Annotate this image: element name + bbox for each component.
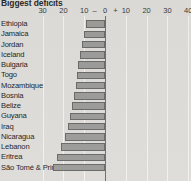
x-axis-tick-20: 20 [142, 6, 150, 16]
chart-row: Mozambique [0, 81, 191, 91]
bar [72, 102, 105, 109]
chart-row: Lebanon [0, 142, 191, 152]
category-label: Iceland [1, 50, 24, 60]
x-axis-tick-30: 30 [163, 6, 171, 16]
bar [61, 143, 105, 150]
bar [78, 61, 105, 68]
x-axis-tick-40: 40 [184, 6, 191, 16]
category-label: Bulgaria [1, 60, 28, 70]
bar [76, 82, 105, 89]
category-label: Nicaragua [1, 132, 34, 142]
category-label: Iraq [1, 122, 14, 132]
chart-row: Togo [0, 70, 191, 80]
bar [84, 31, 105, 38]
chart-row: Nicaragua [0, 132, 191, 142]
category-label: Togo [1, 70, 17, 80]
category-label: Guyana [1, 111, 27, 121]
chart-row: Eritrea [0, 152, 191, 162]
bar [86, 20, 105, 27]
plot-area: EthiopiaJamaicaJordanIcelandBulgariaTogo… [0, 16, 191, 181]
category-label: Belize [1, 101, 21, 111]
x-axis-tick-10-neg: 10 [80, 6, 88, 16]
category-label: Bosnia [1, 91, 23, 101]
chart-row: Guyana [0, 111, 191, 121]
chart-row: Jordan [0, 40, 191, 50]
bar [82, 41, 105, 48]
category-label: Jamaica [1, 29, 28, 39]
bar [77, 72, 105, 79]
chart-row: Bulgaria [0, 60, 191, 70]
zero-axis-line [105, 16, 106, 181]
chart-row: Iceland [0, 50, 191, 60]
x-axis-tick-plus: + [113, 6, 117, 16]
chart-row: Iraq [0, 122, 191, 132]
category-label: Lebanon [1, 142, 30, 152]
bar [53, 164, 105, 171]
chart-row: Bosnia [0, 91, 191, 101]
chart-row: São Tomé & Prin [0, 163, 191, 173]
bar [68, 123, 105, 130]
category-label: Eritrea [1, 152, 22, 162]
bar [80, 51, 105, 58]
bar [74, 92, 105, 99]
bar [65, 133, 105, 140]
x-axis-tick-20-neg: 20 [59, 6, 67, 16]
category-label: Ethiopia [1, 19, 27, 29]
category-label: São Tomé & Prin [1, 163, 56, 173]
x-axis-tick-0: 0 [103, 6, 107, 16]
category-label: Jordan [1, 40, 23, 50]
x-axis-tick-30-neg: 30 [38, 6, 46, 16]
bar [70, 113, 105, 120]
x-axis-tick-10: 10 [122, 6, 130, 16]
chart-row: Ethiopia [0, 19, 191, 29]
x-axis-tick-minus: – [93, 6, 97, 16]
chart-container: Biggest deficits 302010–0+10203040 Ethio… [0, 0, 191, 181]
chart-row: Jamaica [0, 29, 191, 39]
bar [57, 154, 105, 161]
category-label: Mozambique [1, 81, 43, 91]
chart-row: Belize [0, 101, 191, 111]
